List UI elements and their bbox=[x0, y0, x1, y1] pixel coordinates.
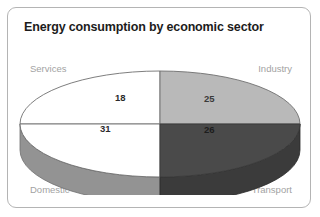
chart-card: Energy consumption by economic sector Se… bbox=[7, 7, 311, 208]
pie-value-services: 18 bbox=[115, 92, 126, 103]
pie-chart-svg bbox=[16, 60, 304, 195]
pie-value-industry: 25 bbox=[204, 93, 215, 104]
pie-value-domestic: 31 bbox=[100, 123, 111, 134]
pie-chart: 18 25 26 31 bbox=[8, 8, 312, 209]
pie-slice-industry bbox=[160, 71, 300, 124]
pie-value-transport: 26 bbox=[204, 124, 215, 135]
pie-slice-services bbox=[20, 71, 160, 124]
